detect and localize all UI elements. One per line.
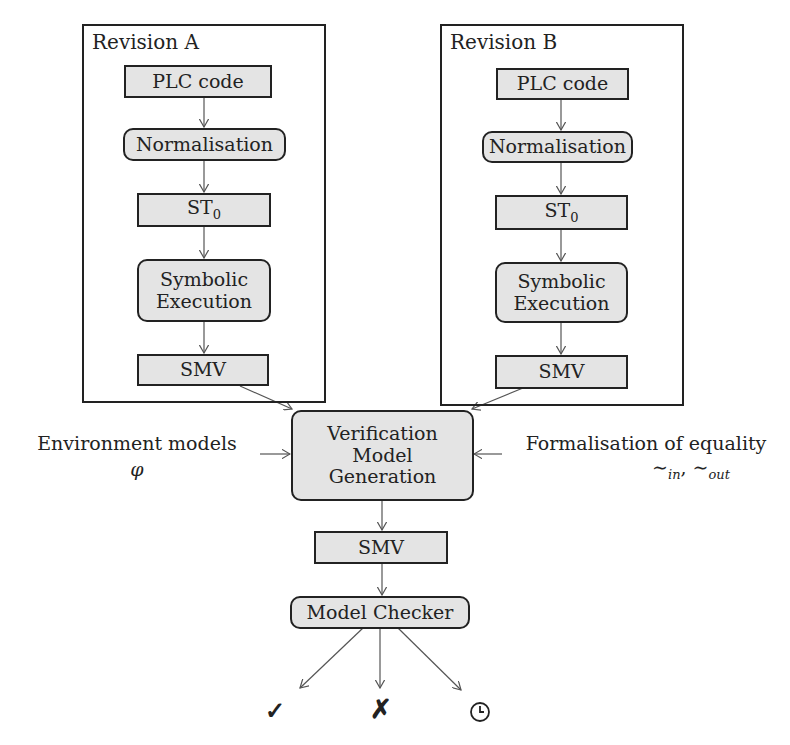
revision-a-smv-label: SMV (180, 359, 226, 381)
revision-a-title: Revision A (92, 30, 199, 54)
model-checker-label: Model Checker (307, 602, 454, 624)
revision-b-symbolic-line1: Symbolic (517, 271, 605, 293)
revision-b-st0: ST0 (495, 195, 628, 230)
edge-checker-success (300, 628, 363, 688)
revision-b-normalisation-label: Normalisation (489, 136, 626, 158)
revision-a-st0-label: ST0 (187, 197, 221, 223)
revision-a-plc-code-label: PLC code (152, 71, 243, 93)
model-checker: Model Checker (290, 596, 470, 629)
formalisation-of-equality: Formalisation of equality ∼in, ∼out (515, 432, 777, 482)
formalisation-of-equality-label: Formalisation of equality (515, 432, 777, 454)
output-smv: SMV (314, 531, 448, 564)
environment-models-symbol: φ (22, 458, 252, 480)
revision-b-smv-label: SMV (538, 361, 584, 383)
verification-model-generation: Verification Model Generation (291, 410, 474, 501)
revision-b-symbolic-execution: Symbolic Execution (495, 262, 628, 323)
revision-b-normalisation: Normalisation (482, 131, 633, 163)
failure-cross-icon: ✗ (366, 694, 396, 724)
revision-a-normalisation: Normalisation (123, 128, 286, 161)
success-check-icon: ✓ (260, 696, 290, 725)
revision-b-symbolic-line2: Execution (513, 293, 609, 315)
revision-a-normalisation-label: Normalisation (136, 134, 273, 156)
revision-b-plc-code: PLC code (496, 68, 629, 100)
revision-a-symbolic-line2: Execution (156, 291, 252, 313)
equality-relations: ∼in, ∼out (515, 456, 777, 482)
revision-a-smv: SMV (137, 354, 269, 386)
revision-a-symbolic-execution: Symbolic Execution (137, 259, 271, 322)
environment-models: Environment models φ (22, 432, 252, 480)
edge-checker-timeout (398, 628, 461, 690)
revision-a-symbolic-line1: Symbolic (160, 269, 248, 291)
revision-a-plc-code: PLC code (124, 65, 272, 98)
revision-a-st0: ST0 (137, 193, 271, 227)
verification-line2: Model (352, 445, 412, 467)
timeout-clock-icon (469, 701, 491, 727)
revision-b-st0-label: ST0 (545, 200, 579, 226)
revision-b-smv: SMV (495, 355, 628, 389)
output-smv-label: SMV (358, 537, 404, 559)
environment-models-label: Environment models (22, 432, 252, 454)
verification-line1: Verification (327, 423, 437, 445)
revision-b-title: Revision B (450, 30, 557, 54)
verification-line3: Generation (329, 466, 437, 488)
revision-b-plc-code-label: PLC code (517, 73, 608, 95)
